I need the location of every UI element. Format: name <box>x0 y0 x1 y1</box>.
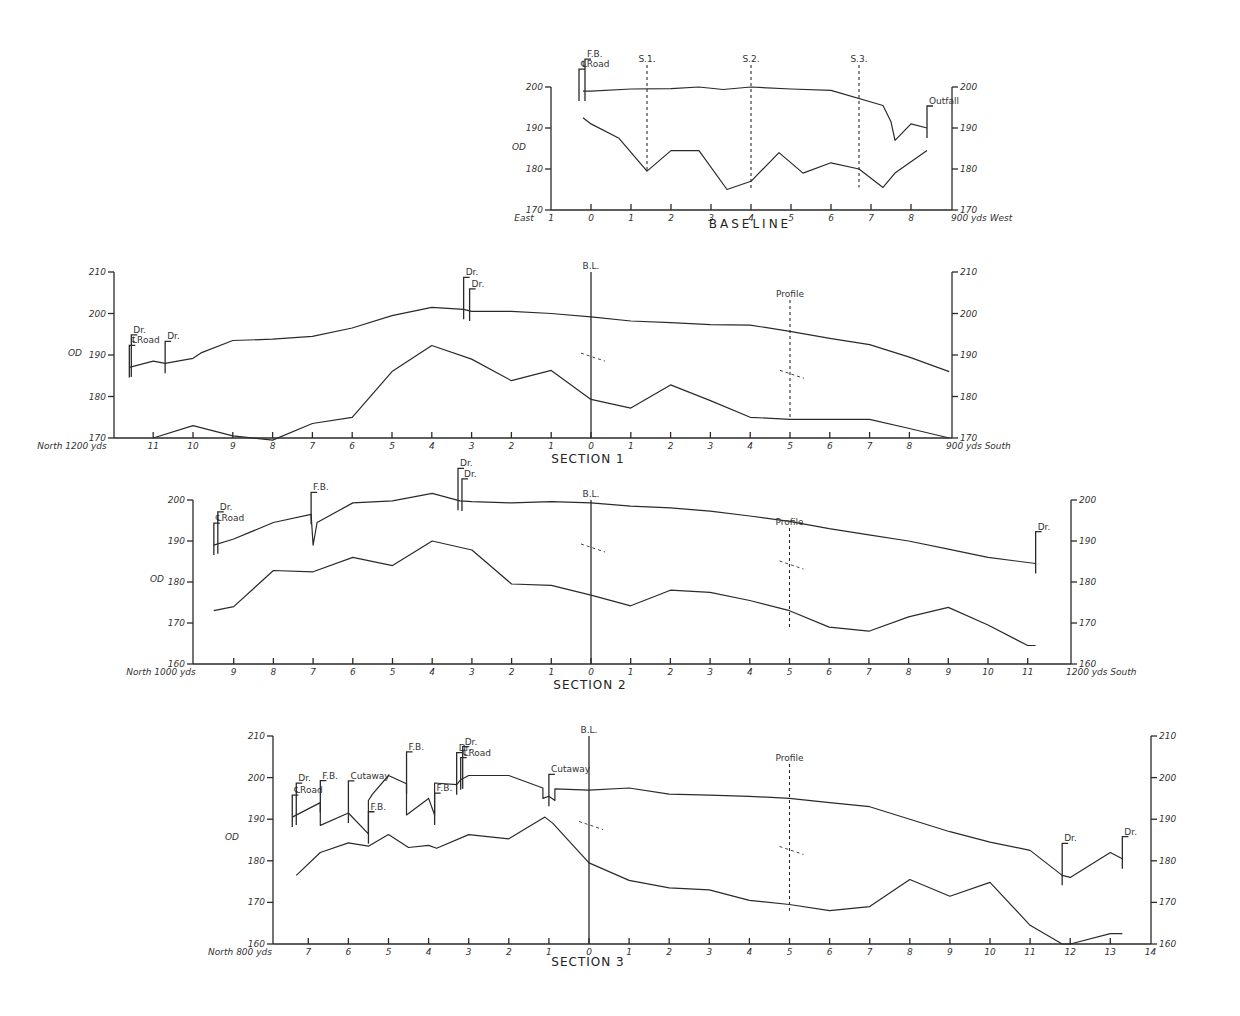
x-tick-label: 1 <box>628 441 634 451</box>
x-tick-label: 3 <box>466 947 472 957</box>
svg-text:Dr.: Dr. <box>298 773 311 783</box>
y-tick-label: 190 <box>526 123 543 133</box>
svg-text:S.3.: S.3. <box>850 54 867 64</box>
svg-text:Dr.: Dr. <box>465 737 478 747</box>
svg-text:Dr.: Dr. <box>464 469 477 479</box>
svg-text:S.1.: S.1. <box>638 54 655 64</box>
svg-text:℄Road: ℄Road <box>130 335 159 345</box>
x-tick-label: 8 <box>908 213 914 223</box>
y-tick-label: 190 <box>248 814 265 824</box>
marker-fb: F.B. <box>435 783 453 825</box>
svg-text:Dr.: Dr. <box>1038 522 1051 532</box>
marker-fb: F.B. <box>407 742 425 794</box>
svg-text:Profile: Profile <box>776 517 804 527</box>
section3-chart: 1601601701701801801901902002002102107654… <box>208 725 1176 969</box>
svg-text:F.B.: F.B. <box>322 771 338 781</box>
y-tick-label: 200 <box>960 82 977 92</box>
x-axis-right-label: 900 yds West <box>951 213 1013 223</box>
marker-dr: Dr. <box>131 325 146 377</box>
marker-dr: Dr. <box>296 773 311 825</box>
x-tick-label: 2 <box>668 441 674 451</box>
x-tick-label: 3 <box>707 667 713 677</box>
y-tick-label: 200 <box>960 309 977 319</box>
x-tick-label: 9 <box>231 667 237 677</box>
y-tick-label: 190 <box>168 536 185 546</box>
subsurface-profile-line <box>214 541 1036 646</box>
marker-profile: Profile <box>776 289 804 419</box>
svg-text:Dr.: Dr. <box>1124 827 1137 837</box>
x-tick-label: 6 <box>827 441 833 451</box>
svg-text:B.L.: B.L. <box>583 489 600 499</box>
marker-road: ℄Road <box>461 748 491 790</box>
marker-cutaway: Cutaway <box>348 771 390 823</box>
y-tick-label: 190 <box>1159 814 1176 824</box>
marker-dr: Dr. <box>1036 522 1051 574</box>
y-tick-label: 210 <box>248 731 265 741</box>
y-tick-label: 200 <box>168 495 185 505</box>
marker-dr: Dr. <box>470 279 485 321</box>
x-axis-left-label: North 1000 yds <box>126 667 196 677</box>
svg-text:℄Road: ℄Road <box>462 748 491 758</box>
y-axis-label: OD <box>225 832 239 842</box>
x-axis-right-label: 1200 yds South <box>1066 667 1137 677</box>
x-tick-label: 5 <box>787 441 793 451</box>
marker-bl: B.L. <box>581 261 605 438</box>
x-tick-label: 5 <box>389 441 395 451</box>
x-tick-label: 13 <box>1105 947 1117 957</box>
x-tick-label: 7 <box>305 947 311 957</box>
y-tick-label: 200 <box>1159 773 1176 783</box>
y-tick-label: 170 <box>1079 618 1096 628</box>
section1-chart: 1701701801801901902002002102101110987654… <box>37 261 1011 466</box>
x-tick-label: 3 <box>706 947 712 957</box>
subsurface-profile-line <box>583 118 927 190</box>
x-axis-left-label: North 800 yds <box>208 947 272 957</box>
svg-text:S.2.: S.2. <box>742 54 759 64</box>
svg-text:Dr.: Dr. <box>466 267 479 277</box>
y-tick-label: 180 <box>960 164 977 174</box>
y-tick-label: 180 <box>526 164 543 174</box>
x-tick-label: 9 <box>947 947 953 957</box>
x-tick-label: 5 <box>386 947 392 957</box>
y-tick-label: 180 <box>960 392 977 402</box>
y-tick-label: 170 <box>1159 897 1176 907</box>
chart-title: SECTION 3 <box>551 955 624 969</box>
svg-text:℄Road: ℄Road <box>293 785 322 795</box>
svg-text:F.B.: F.B. <box>587 49 603 59</box>
x-tick-label: 6 <box>349 441 355 451</box>
x-tick-label: 11 <box>1024 947 1035 957</box>
x-tick-label: 0 <box>588 441 594 451</box>
svg-text:B.L.: B.L. <box>583 261 600 271</box>
marker-dr: Dr. <box>165 331 180 373</box>
x-tick-label: 11 <box>147 441 158 451</box>
y-tick-label: 200 <box>1079 495 1096 505</box>
x-tick-label: 6 <box>826 667 832 677</box>
y-tick-label: 200 <box>248 773 265 783</box>
chart-title: SECTION 2 <box>553 678 626 692</box>
x-tick-label: 4 <box>429 441 435 451</box>
svg-text:Dr.: Dr. <box>472 279 485 289</box>
x-tick-label: 8 <box>906 667 912 677</box>
section2-axes: 1601601701701801801901902002009876543210… <box>126 495 1137 692</box>
y-tick-label: 190 <box>1079 536 1096 546</box>
x-tick-label: 9 <box>945 667 951 677</box>
y-tick-label: 210 <box>1159 731 1176 741</box>
x-axis-left-label: East <box>514 213 534 223</box>
marker-s2: S.2. <box>742 54 759 190</box>
y-tick-label: 190 <box>89 350 106 360</box>
x-tick-label: 0 <box>588 667 594 677</box>
svg-text:Profile: Profile <box>776 753 804 763</box>
x-tick-label: 2 <box>668 667 674 677</box>
marker-dr: Dr. <box>463 737 478 789</box>
x-tick-label: 3 <box>469 667 475 677</box>
x-tick-label: 4 <box>747 667 753 677</box>
svg-text:℄Road: ℄Road <box>215 513 244 523</box>
subsurface-profile-line <box>153 346 949 441</box>
x-tick-label: 2 <box>506 947 512 957</box>
marker-s1: S.1. <box>638 54 655 171</box>
surface-profile-line <box>583 87 927 140</box>
svg-text:Dr.: Dr. <box>1064 833 1077 843</box>
marker-outfall: Outfall <box>927 96 959 138</box>
x-tick-label: 14 <box>1145 947 1157 957</box>
x-tick-label: 7 <box>868 213 874 223</box>
y-tick-label: 170 <box>168 618 185 628</box>
